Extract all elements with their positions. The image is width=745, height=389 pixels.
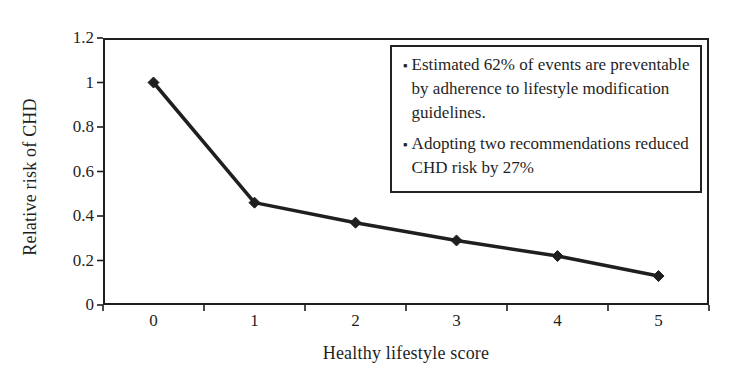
y-tick-label: 0: [34, 295, 94, 315]
y-tick-label: 0.2: [34, 251, 94, 271]
x-axis-title: Healthy lifestyle score: [103, 343, 709, 364]
x-tick-label: 0: [132, 311, 176, 331]
annotation-item: ▪Estimated 62% of events are preventable…: [403, 53, 695, 125]
y-tick-label: 0.4: [34, 206, 94, 226]
y-tick-label: 1: [34, 73, 94, 93]
chd-risk-line-chart-figure: Relative risk of CHD 00.20.40.60.811.2 0…: [0, 0, 745, 389]
x-tick-label: 2: [334, 311, 378, 331]
x-tick-label: 4: [536, 311, 580, 331]
data-point-marker: [451, 235, 462, 246]
y-tick-label: 1.2: [34, 28, 94, 48]
x-tick-label: 5: [637, 311, 681, 331]
square-bullet-icon: ▪: [403, 132, 408, 157]
data-point-marker: [653, 271, 664, 282]
annotation-item: ▪Adopting two recommendations reduced CH…: [403, 132, 695, 180]
square-bullet-icon: ▪: [403, 53, 408, 78]
y-tick-label: 0.8: [34, 117, 94, 137]
x-tick-label: 1: [233, 311, 277, 331]
data-point-marker: [350, 217, 361, 228]
annotation-text: Estimated 62% of events are preventable …: [412, 53, 695, 125]
data-point-marker: [552, 251, 563, 262]
annotation-items: ▪Estimated 62% of events are preventable…: [403, 53, 695, 180]
annotation-text: Adopting two recommendations reduced CHD…: [412, 132, 695, 180]
annotation-box: ▪Estimated 62% of events are preventable…: [390, 45, 702, 193]
x-tick-label: 3: [435, 311, 479, 331]
y-tick-label: 0.6: [34, 162, 94, 182]
